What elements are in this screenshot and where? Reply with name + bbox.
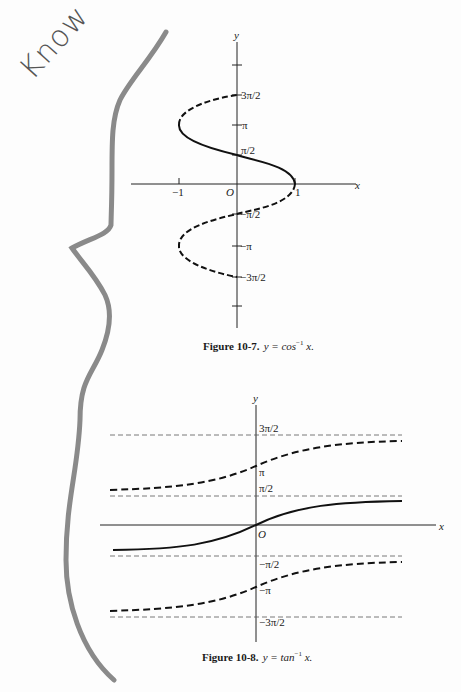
figure-arctan-plot: [0, 0, 461, 692]
scanned-textbook-page: Know y x O −1 1 3π/2 π π/2 −π/2 −π −3: [0, 0, 461, 692]
fig2-caption-var: x.: [302, 651, 312, 663]
fig2-y-tick-3pi2: 3π/2: [259, 423, 279, 434]
fig2-y-tick-neg-pi2: −π/2: [259, 559, 279, 570]
fig2-x-axis-label: x: [439, 521, 444, 532]
fig2-origin-label: O: [258, 529, 266, 540]
fig2-caption-superscript: −1: [295, 650, 302, 658]
fig2-y-tick-neg-3pi2: −3π/2: [259, 617, 285, 628]
fig2-caption-formula: y = tan: [263, 651, 295, 663]
fig2-y-tick-pi2: π/2: [259, 483, 273, 494]
fig2-caption: Figure 10-8.y = tan−1 x.: [202, 650, 312, 663]
fig2-y-axis-label: y: [253, 393, 258, 404]
fig2-y-tick-neg-pi: −π: [259, 585, 271, 596]
fig2-y-tick-pi: π: [259, 467, 265, 478]
fig2-caption-number: Figure 10-8.: [202, 651, 259, 663]
